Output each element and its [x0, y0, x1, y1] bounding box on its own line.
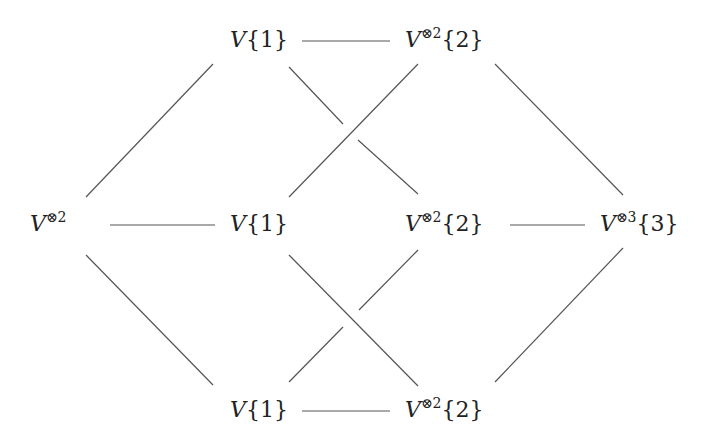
edge-bot2-right — [495, 248, 623, 382]
edge-left-bot1 — [86, 255, 213, 385]
edge-top2-right — [495, 64, 623, 195]
node-sup: ⊗2 — [421, 25, 442, 41]
edge-top1-mid2-b — [358, 140, 418, 194]
node-left: V⊗2 — [30, 213, 67, 235]
edge-top1-mid2-a — [289, 67, 343, 124]
edge-left-top1 — [86, 64, 213, 197]
node-base: V — [405, 397, 421, 422]
node-idx: {1} — [246, 397, 288, 422]
node-idx: {1} — [246, 211, 288, 236]
node-idx: {2} — [442, 211, 484, 236]
node-idx: {2} — [442, 397, 484, 422]
node-mid2: V⊗2{2} — [405, 213, 484, 235]
node-top2: V⊗2{2} — [405, 29, 484, 51]
edge-bot1-mid2-b — [289, 327, 343, 382]
node-sup: ⊗3 — [616, 209, 637, 225]
edge-mid1-bot2 — [289, 255, 418, 386]
edge-bot1-mid2-a — [359, 250, 418, 310]
node-bot2: V⊗2{2} — [405, 399, 484, 421]
node-top1: V{1} — [230, 29, 288, 51]
node-base: V — [405, 27, 421, 52]
node-sup: ⊗2 — [421, 209, 442, 225]
node-idx: {1} — [246, 27, 288, 52]
node-idx: {2} — [442, 27, 484, 52]
node-base: V — [230, 27, 246, 52]
node-idx: {3} — [637, 211, 679, 236]
node-bot1: V{1} — [230, 399, 288, 421]
node-mid1: V{1} — [230, 213, 288, 235]
node-sup: ⊗2 — [421, 395, 442, 411]
node-base: V — [600, 211, 616, 236]
node-right: V⊗3{3} — [600, 213, 679, 235]
node-base: V — [230, 397, 246, 422]
node-base: V — [405, 211, 421, 236]
node-base: V — [230, 211, 246, 236]
node-sup: ⊗2 — [46, 209, 67, 225]
node-base: V — [30, 211, 46, 236]
